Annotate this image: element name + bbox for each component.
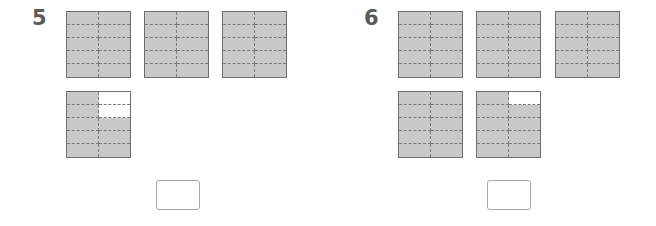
shaded-cell <box>509 12 541 25</box>
shaded-cell <box>399 12 431 25</box>
shaded-cell <box>431 51 463 64</box>
unshaded-cell <box>509 92 541 105</box>
problem-number: 6 <box>364 8 379 29</box>
shaded-cell <box>399 64 431 77</box>
fraction-square <box>398 91 463 158</box>
shaded-cell <box>431 92 463 105</box>
fraction-square <box>555 11 620 78</box>
shaded-cell <box>509 144 541 157</box>
shaded-cell <box>588 51 620 64</box>
shaded-cell <box>556 12 588 25</box>
shaded-cell <box>399 51 431 64</box>
fraction-square <box>476 91 541 158</box>
shaded-cell <box>477 51 509 64</box>
shaded-cell <box>588 25 620 38</box>
shaded-cell <box>431 64 463 77</box>
shaded-cell <box>477 144 509 157</box>
shaded-cell <box>431 131 463 144</box>
shaded-cell <box>509 25 541 38</box>
shaded-cell <box>477 92 509 105</box>
shaded-cell <box>477 25 509 38</box>
shaded-cell <box>399 131 431 144</box>
shaded-cell <box>477 105 509 118</box>
shaded-cell <box>431 105 463 118</box>
shaded-cell <box>556 64 588 77</box>
shaded-cell <box>556 38 588 51</box>
shaded-cell <box>509 131 541 144</box>
shaded-cell <box>477 118 509 131</box>
shaded-cell <box>431 25 463 38</box>
shaded-cell <box>431 118 463 131</box>
shaded-cell <box>431 144 463 157</box>
shaded-cell <box>509 118 541 131</box>
answer-box[interactable] <box>487 180 531 210</box>
shaded-cell <box>556 51 588 64</box>
shaded-cell <box>588 38 620 51</box>
shaded-cell <box>509 64 541 77</box>
shaded-cell <box>588 12 620 25</box>
shaded-cell <box>399 25 431 38</box>
shaded-cell <box>556 25 588 38</box>
shaded-cell <box>399 105 431 118</box>
fraction-square <box>398 11 463 78</box>
shaded-cell <box>477 64 509 77</box>
shaded-cell <box>477 131 509 144</box>
shaded-cell <box>399 92 431 105</box>
shaded-cell <box>509 51 541 64</box>
problem-6: 6 <box>0 0 328 226</box>
shaded-cell <box>399 144 431 157</box>
shaded-cell <box>509 105 541 118</box>
shaded-cell <box>477 38 509 51</box>
shaded-cell <box>477 12 509 25</box>
fraction-square <box>476 11 541 78</box>
shaded-cell <box>509 38 541 51</box>
shaded-cell <box>399 118 431 131</box>
shaded-cell <box>399 38 431 51</box>
shaded-cell <box>588 64 620 77</box>
shaded-cell <box>431 38 463 51</box>
shaded-cell <box>431 12 463 25</box>
